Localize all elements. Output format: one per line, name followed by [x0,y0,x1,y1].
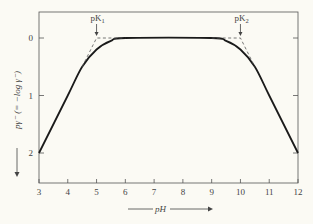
asymptote-dashed-line [82,38,125,67]
x-tick-label: 4 [66,187,71,197]
x-tick-label: 5 [94,187,99,197]
y-tick-label: 0 [29,33,34,43]
y-axis-ticks: 012 [29,33,299,158]
x-tick-label: 8 [181,187,186,197]
pk-label: pK1 [91,13,105,24]
x-tick-label: 6 [123,187,128,197]
pk-label: pK2 [234,13,248,24]
x-tick-label: 3 [37,187,42,197]
curve-line [39,38,298,153]
arrow-down-icon [238,32,242,36]
x-tick-label: 11 [265,187,274,197]
x-axis-ticks: 3456789101112 [37,179,303,197]
x-tick-label: 10 [236,187,246,197]
y-axis-arrow [15,148,20,177]
asymptote-dashed-line [212,38,255,67]
x-tick-label: 9 [209,187,214,197]
arrow-down-icon [95,32,99,36]
chart: 3456789101112 012 pK1pK2 pH pγ⁻ (= −log … [0,0,313,224]
x-tick-label: 12 [294,187,303,197]
y-tick-label: 1 [29,91,34,101]
x-axis-title: pH [128,204,213,214]
series-group [39,38,298,153]
arrow-right-icon [208,207,213,212]
x-tick-label: 7 [152,187,157,197]
y-axis-label: pγ⁻ (= −log γ⁻) [12,71,22,130]
y-tick-label: 2 [29,148,34,158]
arrow-down-icon [15,172,20,177]
y-axis-title: pγ⁻ (= −log γ⁻) [12,71,22,130]
annotations: pK1pK2 [91,13,249,36]
x-axis-label: pH [154,204,167,214]
